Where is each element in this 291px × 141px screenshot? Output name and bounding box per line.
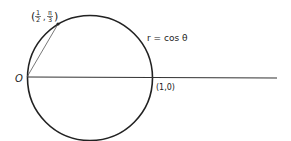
- svg-text:2: 2: [36, 16, 40, 24]
- radius-segment: [27, 24, 58, 77]
- svg-text:3: 3: [48, 16, 52, 24]
- origin-label: O: [15, 73, 23, 84]
- svg-text:): ): [54, 10, 58, 23]
- curve-equation-label: r = cos θ: [147, 33, 188, 43]
- intercept-label: (1,0): [156, 83, 175, 92]
- point-label: ( 1 2 , π 3 ): [31, 9, 58, 24]
- polar-axis: [27, 77, 277, 78]
- polar-circle-diagram: O ( 1 2 , π 3 ) r = cos θ (1,0): [0, 0, 291, 141]
- svg-text:(: (: [31, 10, 35, 23]
- svg-text:,: ,: [43, 13, 46, 22]
